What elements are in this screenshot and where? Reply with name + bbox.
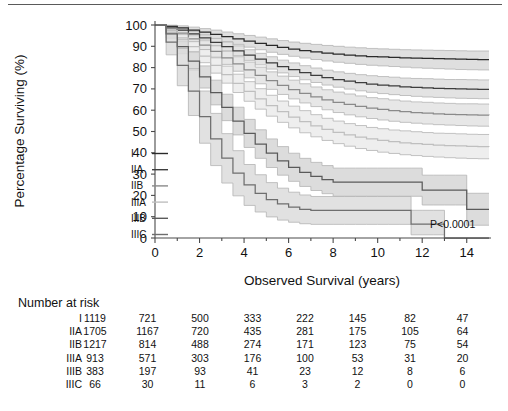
risk-cell: 333	[244, 312, 262, 324]
risk-cell: 1119	[84, 312, 106, 324]
risk-table-title: Number at risk	[18, 296, 100, 310]
risk-cell: 1217	[83, 338, 107, 350]
risk-row-label-iib: IIB	[69, 338, 82, 350]
risk-cell: 814	[139, 338, 157, 350]
x-tick-label: 8	[330, 245, 337, 260]
risk-cell: 30	[142, 378, 154, 390]
legend-label-i: I	[131, 148, 134, 159]
risk-cell: 3	[302, 378, 308, 390]
risk-cell: 6	[460, 365, 466, 377]
risk-cell: 123	[349, 338, 367, 350]
risk-row-label-iiic: IIIC	[66, 378, 83, 390]
risk-cell: 54	[457, 338, 469, 350]
x-tick-label: 6	[285, 245, 292, 260]
y-tick-label: 90	[133, 39, 147, 54]
risk-cell: 0	[460, 378, 466, 390]
risk-row-label-iiib: IIIB	[66, 365, 82, 377]
risk-cell: 176	[244, 352, 262, 364]
p-value-annotation: P<0.0001	[430, 218, 475, 230]
risk-cell: 1705	[83, 325, 107, 337]
risk-cell: 47	[457, 312, 469, 324]
risk-cell: 20	[457, 352, 469, 364]
x-axis-title: Observed Survival (years)	[244, 273, 400, 288]
risk-cell: 145	[349, 312, 367, 324]
risk-row-label-iia: IIA	[69, 325, 82, 337]
risk-cell: 571	[139, 352, 157, 364]
risk-cell: 2	[355, 378, 361, 390]
risk-cell: 175	[349, 325, 367, 337]
risk-cell: 383	[86, 365, 104, 377]
risk-cell: 281	[296, 325, 314, 337]
risk-cell: 23	[299, 365, 311, 377]
x-tick-label: 12	[415, 245, 429, 260]
risk-cell: 913	[86, 352, 104, 364]
risk-cell: 53	[352, 352, 364, 364]
risk-cell: 66	[89, 378, 101, 390]
risk-cell: 82	[404, 312, 416, 324]
risk-cell: 721	[139, 312, 157, 324]
x-tick-label: 10	[370, 245, 384, 260]
risk-cell: 303	[191, 352, 209, 364]
risk-cell: 64	[457, 325, 469, 337]
risk-cell: 720	[191, 325, 209, 337]
risk-cell: 100	[296, 352, 314, 364]
risk-table-group: I11197215003332221458247IIA1705116772043…	[66, 312, 469, 390]
risk-cell: 0	[407, 378, 413, 390]
legend-label-iib: IIB	[131, 180, 144, 191]
x-tick-label: 14	[459, 245, 473, 260]
y-tick-label: 60	[133, 103, 147, 118]
risk-cell: 500	[191, 312, 209, 324]
risk-cell: 222	[296, 312, 314, 324]
x-tick-label: 2	[196, 245, 203, 260]
risk-cell: 41	[247, 365, 259, 377]
y-tick-label: 50	[133, 124, 147, 139]
risk-cell: 8	[407, 365, 413, 377]
y-tick-label: 40	[133, 145, 147, 160]
y-tick-label: 80	[133, 60, 147, 75]
survival-curve-figure: 010203040506070809010002468101214 IIIAII…	[0, 0, 508, 411]
legend-label-iia: IIA	[131, 164, 144, 175]
risk-row-label-i: I	[79, 312, 82, 324]
legend-label-iiic: IIIC	[131, 229, 147, 240]
legend-label-iiib: IIIB	[131, 213, 146, 224]
y-axis-title: Percentage Surviving (%)	[12, 54, 27, 207]
y-tick-label: 100	[125, 18, 147, 33]
risk-cell: 435	[244, 325, 262, 337]
x-tick-label: 4	[240, 245, 247, 260]
y-tick-label: 70	[133, 81, 147, 96]
risk-cell: 12	[352, 365, 364, 377]
risk-row-label-iiia: IIIA	[66, 352, 82, 364]
risk-cell: 105	[401, 325, 419, 337]
confidence-band-group	[155, 25, 489, 238]
risk-cell: 11	[195, 378, 206, 390]
risk-cell: 31	[404, 352, 416, 364]
risk-cell: 6	[250, 378, 256, 390]
risk-cell: 171	[296, 338, 314, 350]
risk-cell: 197	[139, 365, 157, 377]
x-tick-label: 0	[151, 245, 158, 260]
risk-cell: 75	[404, 338, 416, 350]
risk-cell: 1167	[136, 325, 159, 337]
legend-label-iiia: IIIA	[131, 197, 146, 208]
risk-cell: 274	[244, 338, 262, 350]
risk-cell: 93	[194, 365, 206, 377]
risk-cell: 488	[191, 338, 209, 350]
